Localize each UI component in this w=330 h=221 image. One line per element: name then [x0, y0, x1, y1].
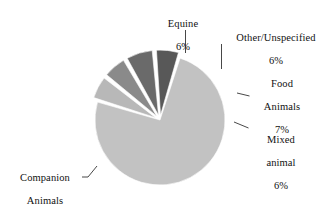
slice-label-mixed-name-line1: Mixed: [250, 134, 312, 146]
slice-label-equine-name: Equine: [152, 18, 214, 30]
slice-label-other-name: Other/Unspecified: [222, 32, 330, 44]
leader-line-mixed: [234, 122, 249, 128]
pie-slice-group: [94, 50, 225, 185]
slice-label-equine-percent: 6%: [152, 41, 214, 53]
slice-label-companion-name-line2: Animals: [2, 195, 88, 207]
slice-label-mixed-percent: 6%: [250, 180, 312, 192]
slice-label-other-percent: 6%: [222, 55, 330, 67]
slice-label-companion-name-line1: Companion: [2, 172, 88, 184]
slice-label-companion: Companion Animals 75%: [2, 160, 88, 220]
slice-label-companion-percent: 75%: [2, 218, 88, 221]
slice-label-food-name-line1: Food: [252, 78, 312, 90]
slice-label-mixed: Mixed animal 6%: [250, 122, 312, 203]
leader-line-food: [237, 93, 250, 96]
slice-label-equine: Equine 6%: [152, 6, 214, 64]
pie-chart: Equine 6% Other/Unspecified 6% Food Anim…: [0, 0, 330, 220]
slice-label-mixed-name-line2: animal: [250, 157, 312, 169]
slice-label-food-name-line2: Animals: [252, 101, 312, 113]
